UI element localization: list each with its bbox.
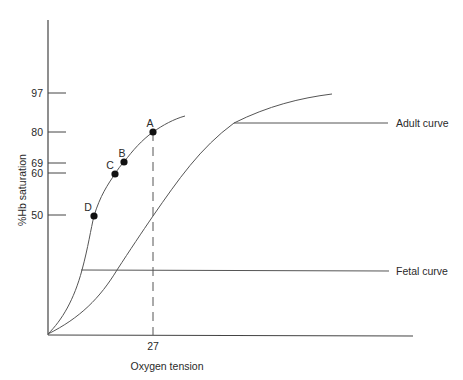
x-axis [48,335,413,336]
point-a-label: A [146,117,153,129]
fetal-curve [48,116,185,334]
y-tick-60: 60 [31,167,43,179]
fetal-leader-line [81,270,389,271]
point-c-label: C [106,159,114,171]
oxygen-dissociation-diagram: 97 80 69 60 50 %Hb saturation 27 Oxygen … [0,0,463,380]
x-tick-27: 27 [147,340,159,352]
y-tick-97: 97 [31,87,43,99]
fetal-curve-label: Fetal curve [396,265,448,277]
point-a-marker [149,128,156,135]
y-ticks [48,93,66,215]
adult-curve [48,94,332,334]
point-b-label: B [118,147,125,159]
y-tick-80: 80 [31,126,43,138]
adult-curve-label: Adult curve [396,117,449,129]
y-tick-50: 50 [31,209,43,221]
point-c-marker [111,170,118,177]
point-b-marker [120,158,127,165]
point-d-marker [90,212,97,219]
y-axis-label: %Hb saturation [16,154,28,226]
point-d-label: D [84,201,92,213]
x-axis-label: Oxygen tension [131,360,204,372]
